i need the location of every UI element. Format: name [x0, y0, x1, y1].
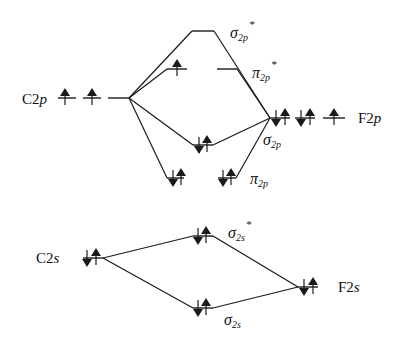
c2p-levels — [58, 88, 129, 105]
spin-up-icon — [87, 88, 97, 105]
f2p-label: F2p — [358, 110, 382, 126]
spin-up-icon — [176, 168, 186, 185]
f2s-level — [298, 277, 318, 296]
sigma2p-star-label: σ2p* — [230, 18, 255, 43]
spin-up-icon — [91, 248, 101, 265]
spin-up-icon — [202, 135, 212, 152]
f2p-levels — [270, 108, 345, 127]
spin-up-icon — [60, 88, 70, 105]
c2p-label: C2p — [22, 91, 48, 107]
c2s-level — [82, 236, 193, 308]
spin-up-icon — [280, 108, 290, 125]
pi2p-label: π2p — [250, 170, 268, 189]
sigma2s-level — [193, 287, 298, 317]
spin-up-icon — [201, 298, 211, 315]
sigma2p-label: σ2p — [263, 131, 281, 150]
spin-up-icon — [172, 59, 182, 76]
spin-up-icon — [226, 168, 236, 185]
spin-up-icon — [308, 277, 318, 294]
pi2p-star-label: π2p* — [252, 58, 277, 83]
spin-up-icon — [305, 108, 315, 125]
spin-up-icon — [329, 108, 339, 125]
mo-diagram: C2p σ2p* π2p* σ2p — [0, 0, 402, 345]
sigma2s-star-level — [193, 226, 298, 287]
f2s-label: F2s — [338, 279, 360, 295]
c2p-correlation-lines — [129, 31, 193, 178]
sigma2s-label: σ2s — [224, 311, 241, 330]
sigma2p-level — [193, 118, 270, 154]
sigma2s-star-label: σ2s* — [228, 218, 252, 243]
c2s-label: C2s — [36, 250, 60, 266]
spin-up-icon — [201, 226, 211, 243]
